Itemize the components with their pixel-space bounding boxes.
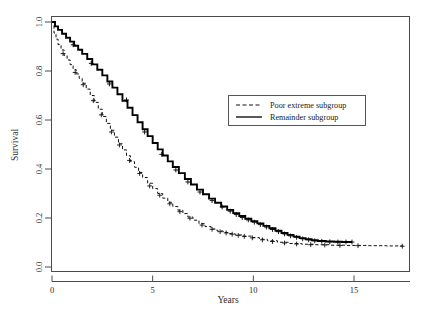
- survival-curve-chart: 051015 0.00.20.40.60.81.0 Years Survival…: [0, 0, 425, 320]
- y-tick-label: 0.4: [34, 163, 44, 174]
- x-tick-label: 10: [249, 285, 258, 295]
- y-axis-label: Survival: [10, 129, 20, 162]
- x-tick-label: 0: [50, 285, 54, 295]
- y-tick-label: 1.0: [34, 17, 44, 28]
- y-tick-label: 0.8: [34, 66, 44, 77]
- legend-label-remainder: Remainder subgroup: [270, 113, 338, 122]
- y-tick-label: 0.2: [34, 213, 44, 224]
- y-tick-label: 0.6: [34, 115, 44, 126]
- chart-legend: Poor extreme subgroup Remainder subgroup: [229, 96, 366, 126]
- y-tick-label: 0.0: [34, 262, 44, 273]
- chart-canvas: 051015 0.00.20.40.60.81.0 Years Survival…: [0, 0, 425, 320]
- x-tick-label: 15: [350, 285, 359, 295]
- legend-label-poor-extreme: Poor extreme subgroup: [270, 101, 346, 110]
- x-axis-label: Years: [217, 295, 239, 305]
- x-tick-label: 5: [151, 285, 155, 295]
